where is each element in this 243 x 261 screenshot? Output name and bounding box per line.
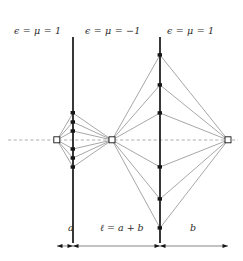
region-label-right-vacuum: ϵ = μ = 1 — [167, 25, 214, 36]
dimension-label-b: b — [190, 222, 196, 233]
external-focus-marker — [225, 137, 231, 143]
source-point-marker — [54, 137, 60, 143]
ray-bundle-slab-right — [112, 55, 160, 228]
dimension-line-group — [57, 244, 228, 248]
internal-focus-marker — [109, 137, 115, 143]
region-label-left-vacuum: ϵ = μ = 1 — [14, 25, 61, 36]
ray-bundle-right-emergent — [160, 55, 228, 228]
dimension-label-total-length: ℓ = a + b — [100, 222, 144, 233]
dimension-label-a: a — [68, 222, 74, 233]
region-label-negative-slab: ϵ = μ = −1 — [85, 25, 141, 36]
